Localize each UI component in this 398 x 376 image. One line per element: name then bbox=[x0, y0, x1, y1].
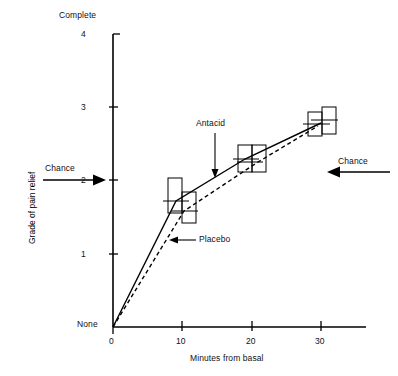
y-tick-label-1: 1 bbox=[81, 249, 86, 259]
y-tick-label-3: 3 bbox=[81, 102, 86, 112]
antacid-line bbox=[113, 123, 321, 327]
y-tick-label-4: 4 bbox=[81, 29, 86, 39]
x-axis-title: Minutes from basal bbox=[190, 353, 264, 363]
x-tick-label-20: 20 bbox=[246, 336, 256, 346]
y-axis-ticks bbox=[109, 34, 120, 254]
placebo-annotation-arrow bbox=[169, 237, 196, 244]
x-tick-label-30: 30 bbox=[315, 336, 325, 346]
chance-right-arrow bbox=[327, 167, 390, 178]
chance-right-label: Chance bbox=[338, 156, 368, 166]
chance-left-arrow bbox=[43, 175, 106, 186]
x-tick-label-10: 10 bbox=[176, 336, 186, 346]
mean-markers bbox=[163, 120, 338, 211]
placebo-error-boxes bbox=[182, 112, 322, 223]
y-axis-complete-label: Complete bbox=[59, 10, 96, 20]
y-tick-label-2: 2 bbox=[81, 175, 86, 185]
x-tick-label-0: 0 bbox=[109, 336, 114, 346]
antacid-annotation-arrow bbox=[212, 133, 219, 178]
pain-relief-chart: Complete 4 3 2 1 None 0 10 20 30 Minutes… bbox=[0, 0, 398, 376]
antacid-label: Antacid bbox=[196, 118, 225, 128]
y-axis-title: Grade of pain relief bbox=[27, 172, 37, 244]
y-axis-none-label: None bbox=[77, 319, 98, 329]
placebo-label: Placebo bbox=[199, 234, 230, 244]
chance-left-label: Chance bbox=[45, 163, 75, 173]
chart-canvas bbox=[0, 0, 398, 376]
